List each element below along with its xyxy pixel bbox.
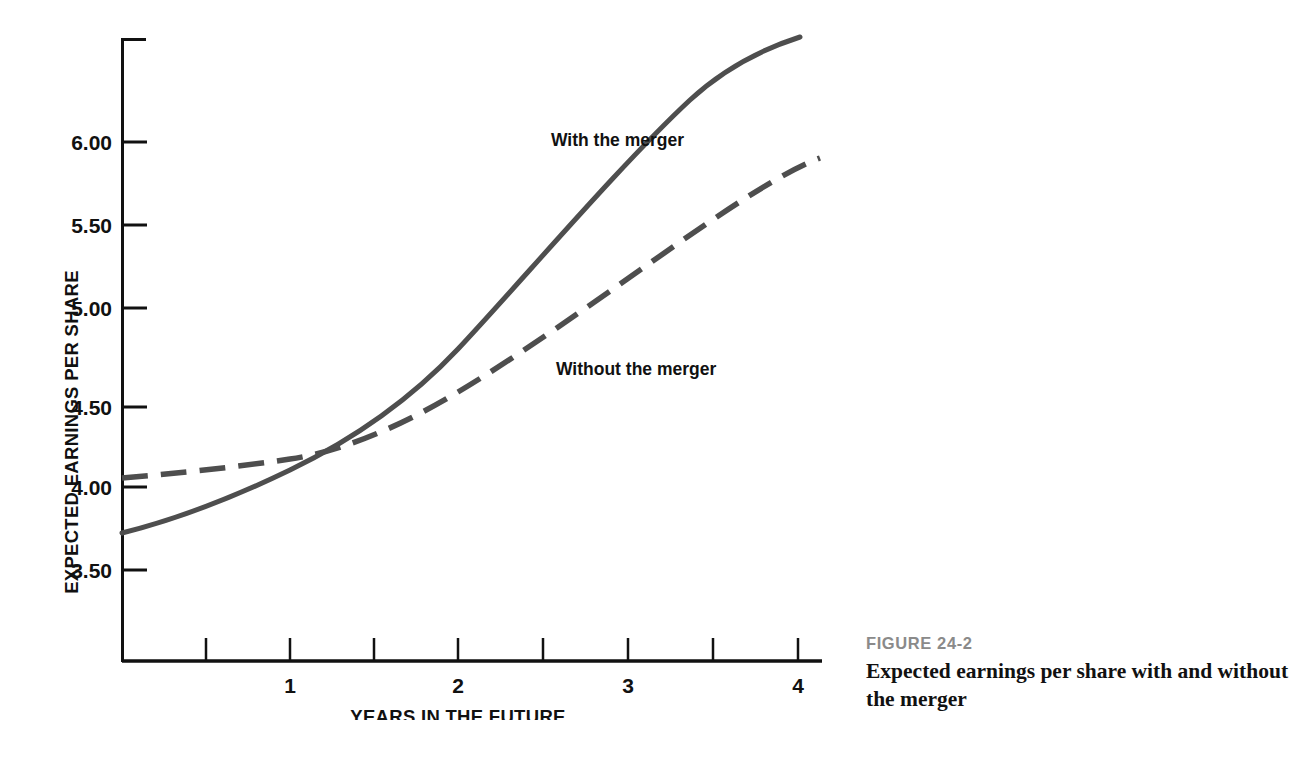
series-annotation-without-merger: Without the merger [556,359,716,379]
series-annotation-with-merger: With the merger [551,130,684,150]
y-axis-title: EXPECTED EARNINGS PER SHARE [61,270,82,594]
figure-caption-text: Expected earnings per share with and wit… [866,657,1296,714]
x-axis-ticks: 1 2 3 4 [206,638,804,697]
series-line-without-merger [122,158,820,478]
y-tick-label-550: 5.50 [71,214,112,237]
chart-axes [122,38,822,662]
x-tick-label-4: 4 [792,674,804,697]
y-tick-label-600: 6.00 [71,131,112,154]
x-axis-title: YEARS IN THE FUTURE [350,706,565,720]
series-line-with-merger [122,37,800,533]
y-axis-ticks: 6.00 5.50 5.00 4.50 4.00 3.50 [71,131,147,582]
x-tick-label-1: 1 [284,674,296,697]
x-tick-label-3: 3 [622,674,634,697]
x-tick-label-2: 2 [452,674,464,697]
line-chart: 6.00 5.50 5.00 4.50 4.00 3.50 1 2 3 4 EX… [0,0,880,720]
chart-series-group [122,37,820,533]
figure-container: 6.00 5.50 5.00 4.50 4.00 3.50 1 2 3 4 EX… [0,0,1311,767]
figure-number-label: FIGURE 24-2 [866,633,1296,654]
figure-caption-block: FIGURE 24-2 Expected earnings per share … [866,633,1296,713]
